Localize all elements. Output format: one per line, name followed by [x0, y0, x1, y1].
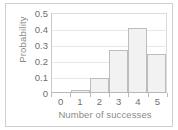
plot-area: [51, 13, 167, 93]
bar: [147, 54, 166, 92]
x-axis-tick-labels: 012345: [51, 95, 167, 108]
bar-series: [52, 14, 166, 92]
x-tick-label: 5: [148, 95, 167, 108]
bar-slot: [128, 14, 147, 92]
x-axis-title: Number of successes: [40, 109, 170, 120]
y-tick-label: 0.4: [24, 25, 48, 34]
y-tick-label: 0.2: [24, 57, 48, 66]
bar-slot: [147, 14, 166, 92]
bar-slot: [90, 14, 109, 92]
bar-slot: [109, 14, 128, 92]
bar: [109, 50, 128, 92]
x-tick-label: 2: [90, 95, 109, 108]
probability-histogram-figure: Probability 00.10.20.30.40.5 012345 Numb…: [0, 0, 178, 130]
bar-slot: [71, 14, 90, 92]
x-tick-mark: [167, 93, 168, 97]
bar: [128, 28, 147, 92]
bar: [71, 90, 90, 92]
y-tick-label: 0: [24, 89, 48, 98]
y-tick-label: 0.5: [24, 9, 48, 18]
y-tick-label: 0.1: [24, 73, 48, 82]
bar: [90, 78, 109, 92]
bar-slot: [52, 14, 71, 92]
y-tick-label: 0.3: [24, 41, 48, 50]
x-tick-label: 0: [51, 95, 70, 108]
y-axis-tick-labels: 00.10.20.30.40.5: [24, 9, 48, 93]
x-tick-label: 4: [128, 95, 147, 108]
x-tick-label: 3: [109, 95, 128, 108]
x-tick-label: 1: [70, 95, 89, 108]
